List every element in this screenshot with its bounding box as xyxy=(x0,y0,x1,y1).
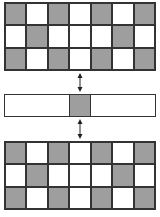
grid-cell xyxy=(48,25,69,47)
grid-cell xyxy=(91,25,112,47)
grid-cell xyxy=(26,3,47,25)
grid-cell xyxy=(69,142,90,164)
grid-cell xyxy=(112,187,133,209)
double-arrow-icon xyxy=(77,73,83,92)
grid-cell xyxy=(5,142,26,164)
grid-cell xyxy=(69,25,90,47)
grid-cell xyxy=(134,187,155,209)
grid-cell xyxy=(48,187,69,209)
grid-cell xyxy=(91,164,112,186)
grid-cell xyxy=(26,48,47,70)
grid-cell xyxy=(134,25,155,47)
grid-cell xyxy=(112,48,133,70)
grid-cell xyxy=(5,3,26,25)
grid-cell xyxy=(112,164,133,186)
grid-cell xyxy=(48,48,69,70)
grid-cell xyxy=(5,187,26,209)
grid-cell xyxy=(26,164,47,186)
grid-cell xyxy=(48,3,69,25)
grid-cell xyxy=(134,48,155,70)
grid-cell xyxy=(48,142,69,164)
grid-cell xyxy=(134,3,155,25)
grid-cell xyxy=(5,48,26,70)
grid-cell xyxy=(69,3,90,25)
grid-cell xyxy=(48,164,69,186)
grid-cell xyxy=(91,187,112,209)
grid-cell xyxy=(69,164,90,186)
grid-cell xyxy=(5,164,26,186)
grid-cell xyxy=(69,48,90,70)
grid-cell xyxy=(69,187,90,209)
middle-strip xyxy=(4,94,156,117)
grid-cell xyxy=(112,25,133,47)
grid-cell xyxy=(26,187,47,209)
grid-cell xyxy=(91,48,112,70)
bottom-checkerboard-grid xyxy=(4,141,156,210)
grid-cell xyxy=(26,142,47,164)
grid-cell xyxy=(91,142,112,164)
grid-cell xyxy=(112,3,133,25)
grid-cell xyxy=(91,3,112,25)
double-arrow-icon xyxy=(77,119,83,139)
grid-cell xyxy=(134,142,155,164)
grid-cell xyxy=(26,25,47,47)
grid-cell xyxy=(112,142,133,164)
grid-cell xyxy=(134,164,155,186)
grid-cell xyxy=(5,25,26,47)
middle-strip-center-cell xyxy=(69,95,91,116)
top-checkerboard-grid xyxy=(4,2,156,71)
